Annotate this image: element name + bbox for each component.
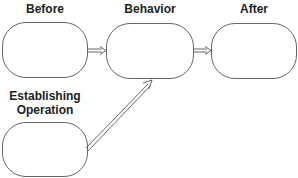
arrows [0, 0, 298, 178]
arrow-behavior-to-after [194, 47, 211, 55]
arrow-establishing-to-behavior [86, 80, 152, 151]
arrow-before-to-behavior [88, 47, 106, 55]
